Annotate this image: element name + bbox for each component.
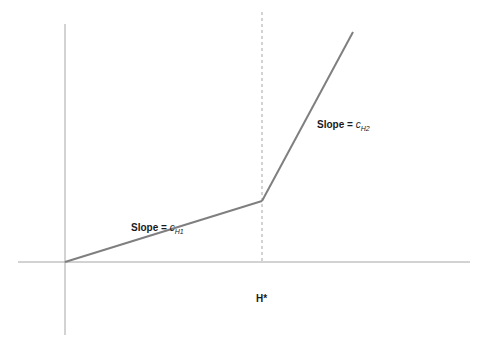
slope-prefix: Slope = — [131, 222, 170, 233]
slope-subscript: H2 — [361, 125, 370, 132]
segment-1-slope-label: Slope = cH1 — [131, 222, 184, 235]
threshold-label: H* — [256, 293, 267, 304]
slope-prefix: Slope = — [317, 119, 356, 130]
segment-2-line — [262, 32, 353, 201]
segment-2-slope-label: Slope = cH2 — [317, 119, 370, 132]
slope-subscript: H1 — [175, 228, 184, 235]
diagram-canvas — [0, 0, 485, 352]
